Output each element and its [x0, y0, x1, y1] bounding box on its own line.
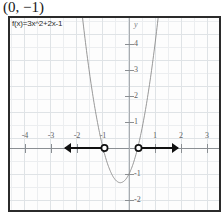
- page-title: (0, −1): [3, 0, 44, 15]
- right-open-circle: [135, 145, 141, 151]
- left-open-circle: [101, 145, 107, 151]
- graph-screenshot: (0, −1) f(x)=3x^2+2x-1 y -4 -3 -2 -1 1 2…: [0, 0, 223, 218]
- right-ray: [140, 143, 179, 153]
- left-ray: [64, 143, 103, 153]
- plot-area: f(x)=3x^2+2x-1 y -4 -3 -2 -1 1 2 3 4 3 2…: [8, 16, 221, 212]
- solution-rays: [10, 18, 219, 210]
